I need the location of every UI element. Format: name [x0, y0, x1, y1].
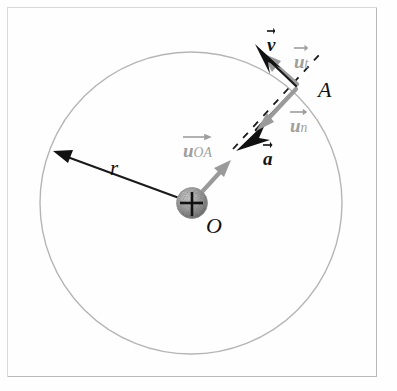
physics-diagram-circular-motion: r O A v ut un: [0, 0, 397, 391]
label-velocity: v: [267, 27, 275, 54]
label-origin: O: [206, 215, 222, 237]
unit-radial-vector: [200, 160, 231, 194]
vector-arrow-overbar-icon: [263, 141, 273, 149]
vector-arrow-overbar-icon: [294, 44, 308, 52]
label-unit-radial: uOA: [183, 133, 212, 160]
label-acceleration: a: [263, 141, 273, 168]
vector-arrow-overbar-icon: [183, 133, 212, 141]
label-unit-tangential: ut: [294, 44, 308, 71]
diagram-canvas: [0, 0, 397, 391]
radius-vector: [53, 150, 190, 202]
vector-arrow-overbar-icon: [267, 27, 275, 35]
label-unit-normal: un: [290, 108, 307, 135]
label-unit-tangential-subscript: t: [305, 56, 309, 71]
label-unit-normal-subscript: n: [301, 120, 308, 135]
vector-arrow-overbar-icon: [290, 108, 307, 116]
central-body: [177, 188, 208, 219]
label-unit-radial-subscript: OA: [194, 145, 212, 160]
velocity-vector: [255, 44, 296, 86]
label-point-a: A: [318, 79, 331, 101]
label-radius: r: [110, 158, 118, 179]
